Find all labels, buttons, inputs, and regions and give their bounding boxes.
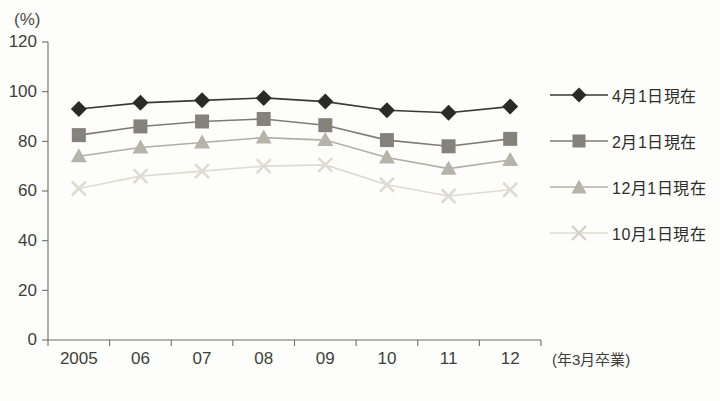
diamond-marker-icon [194, 92, 210, 108]
square-marker-icon [195, 114, 209, 128]
cross-marker-icon [380, 178, 394, 192]
y-tick-label: 40 [18, 231, 37, 250]
legend-item[interactable]: 2月1日現在 [548, 118, 720, 164]
x-tick-label: 08 [254, 349, 273, 368]
cross-marker-icon [548, 222, 610, 244]
y-axis: 020406080100120 [9, 32, 48, 349]
square-marker-icon [257, 112, 271, 126]
x-tick-label: 11 [440, 349, 458, 368]
diamond-marker-icon [502, 99, 518, 115]
x-tick-label: 2005 [60, 349, 98, 368]
chart-legend: 4月1日現在 2月1日現在 12月1日現在 10月1日現在 [548, 72, 720, 256]
y-tick-label: 120 [9, 32, 37, 51]
square-marker-icon [133, 119, 147, 133]
cross-marker-icon [72, 182, 86, 196]
square-marker-icon [72, 128, 86, 142]
diamond-marker-icon [317, 94, 333, 110]
legend-item-label: 2月1日現在 [612, 129, 697, 153]
x-axis: 200506070809101112 [48, 340, 541, 368]
legend-item-label: 10月1日現在 [612, 221, 706, 245]
y-tick-label: 80 [18, 132, 37, 151]
x-tick-label: 06 [131, 349, 150, 368]
y-tick-label: 20 [18, 281, 37, 300]
diamond-marker-icon [256, 90, 272, 106]
y-tick-label: 0 [28, 330, 37, 349]
legend-item[interactable]: 10月1日現在 [548, 210, 720, 256]
data-series-group [71, 90, 518, 203]
diamond-marker-icon [441, 105, 457, 121]
chart-container: (%) 020406080100120 200506070809101112 (… [0, 0, 720, 401]
y-tick-label: 100 [9, 82, 37, 101]
triangle-marker-icon [502, 152, 518, 166]
square-marker-icon [442, 139, 456, 153]
diamond-marker-icon [379, 102, 395, 118]
x-axis-note: (年3月卒業) [552, 348, 630, 369]
x-tick-label: 12 [501, 349, 520, 368]
legend-item-label: 4月1日現在 [612, 83, 697, 107]
triangle-marker-icon [548, 176, 610, 198]
diamond-marker-icon [132, 95, 148, 111]
diamond-marker-icon [71, 101, 87, 117]
data-series [71, 90, 518, 121]
legend-item[interactable]: 4月1日現在 [548, 72, 720, 118]
diamond-marker-icon [548, 84, 610, 106]
y-tick-label: 60 [18, 181, 37, 200]
square-marker-icon [380, 133, 394, 147]
triangle-marker-icon [256, 130, 272, 144]
x-tick-label: 07 [193, 349, 212, 368]
x-tick-label: 10 [377, 349, 396, 368]
x-tick-label: 09 [316, 349, 335, 368]
square-marker-icon [318, 118, 332, 132]
legend-item-label: 12月1日現在 [612, 175, 706, 199]
legend-item[interactable]: 12月1日現在 [548, 164, 720, 210]
square-marker-icon [548, 130, 610, 152]
square-marker-icon [503, 132, 517, 146]
